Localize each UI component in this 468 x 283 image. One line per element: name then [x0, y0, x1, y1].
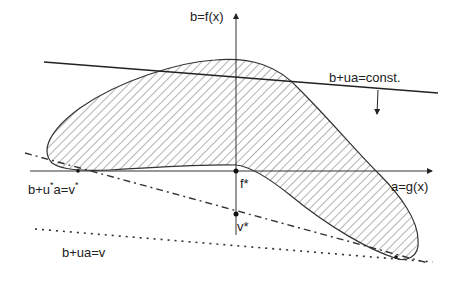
duality-diagram: b=f(x) b+ua=const. a=g(x) f* v* b+u*a=v*… — [0, 0, 468, 283]
y-axis-label: b=f(x) — [190, 10, 224, 23]
dual-optimal-line-prefix: b+u — [28, 182, 50, 197]
dual-line-label: b+ua=v — [62, 246, 105, 259]
dual-optimal-line-mid: a=v — [54, 182, 75, 197]
u-star: * — [50, 180, 54, 190]
v-star-label: v* — [237, 220, 249, 233]
diagram-canvas — [0, 0, 468, 283]
x-axis-label: a=g(x) — [391, 180, 428, 193]
tangent-point-left — [76, 169, 80, 173]
supporting-line-label: b+ua=const. — [329, 71, 401, 84]
dual-optimal-line-label: b+u*a=v* — [28, 183, 78, 196]
normal-arrow — [377, 90, 378, 114]
v-star-sup: * — [75, 180, 79, 190]
f-star-label: f* — [240, 177, 249, 190]
f-star-point — [234, 169, 239, 174]
feasible-region — [47, 59, 418, 259]
tangent-point-right — [394, 255, 398, 259]
v-star-point — [234, 212, 239, 217]
